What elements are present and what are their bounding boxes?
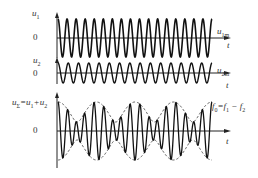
usum-y-label: uΣ=u1+u2	[12, 98, 47, 109]
panel-u1	[55, 12, 231, 58]
u1-y-axis-arrow-icon	[55, 12, 59, 18]
u2-zero-label: 0	[33, 69, 38, 78]
panel-usum	[55, 92, 231, 168]
usum-zero-label: 0	[33, 126, 38, 135]
usum-time-axis-arrow-icon	[224, 129, 231, 133]
u1-amplitude-label: u1m	[217, 27, 229, 38]
u1-zero-label: 0	[33, 33, 38, 42]
u2-t-label: t	[226, 81, 229, 90]
beat-frequency-label: f0=f1 − f2	[212, 102, 245, 113]
u2-y-axis-arrow-icon	[55, 57, 59, 63]
panel-u2	[55, 57, 231, 84]
lower-envelope	[58, 140, 212, 160]
u2-amplitude-label: u2m	[217, 66, 229, 77]
u2-y-label: u2	[33, 56, 41, 67]
usum-y-axis-arrow-icon	[55, 92, 59, 98]
usum-t-label: t	[226, 137, 229, 146]
upper-envelope	[58, 102, 212, 122]
u1-t-label: t	[227, 41, 230, 50]
u1-y-label: u1	[32, 9, 40, 20]
